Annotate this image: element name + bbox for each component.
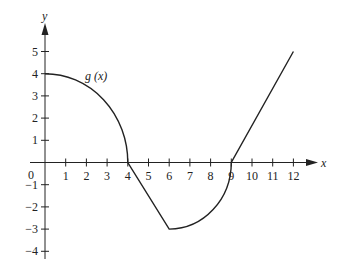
x-tick-label: 4: [125, 169, 131, 183]
x-axis-label: x: [320, 156, 327, 170]
y-tick-label: −2: [25, 200, 38, 214]
series-label: g (x): [85, 69, 107, 83]
y-tick-label: 2: [32, 111, 38, 125]
x-tick-label: 2: [83, 169, 89, 183]
x-tick-label: 12: [287, 169, 299, 183]
y-axis-arrow-icon: [42, 23, 49, 35]
x-tick-label: 5: [146, 169, 152, 183]
y-tick-label: 1: [32, 133, 38, 147]
x-tick-label: 10: [246, 169, 258, 183]
origin-label: 0: [28, 168, 34, 182]
g-curve: [45, 52, 293, 230]
x-tick-label: 3: [104, 169, 110, 183]
y-axis-label: y: [41, 9, 48, 23]
x-tick-label: 6: [166, 169, 172, 183]
y-tick-label: 5: [32, 45, 38, 59]
graph-of-g: xy123456789101112−4−3−2−1123450g (x): [0, 0, 339, 276]
x-tick-label: 11: [267, 169, 279, 183]
y-tick-label: −3: [25, 222, 38, 236]
x-tick-label: 8: [208, 169, 214, 183]
y-tick-label: −4: [25, 244, 38, 258]
y-tick-label: 3: [32, 89, 38, 103]
x-axis-arrow-icon: [306, 159, 318, 166]
x-tick-label: 7: [187, 169, 193, 183]
y-tick-label: 4: [32, 67, 38, 81]
x-tick-label: 1: [63, 169, 69, 183]
